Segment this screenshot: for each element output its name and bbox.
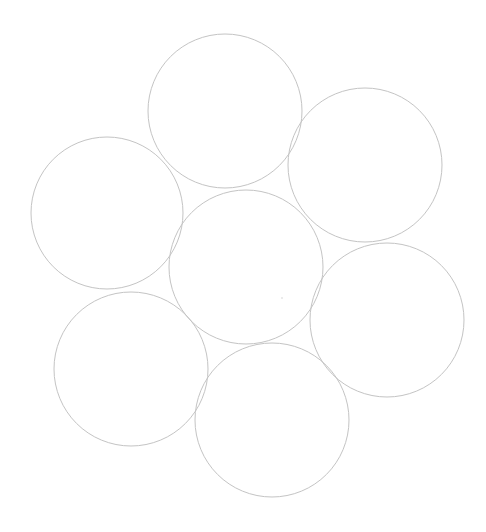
faint-dot <box>281 297 283 299</box>
circles-group <box>31 34 464 497</box>
circle-upper-right <box>288 88 442 242</box>
circle-center <box>169 190 323 344</box>
dots-group <box>281 297 283 299</box>
circle-packing-diagram <box>0 0 486 532</box>
circle-lower-left <box>54 292 208 446</box>
circle-left <box>31 137 183 289</box>
circle-top <box>148 34 302 188</box>
